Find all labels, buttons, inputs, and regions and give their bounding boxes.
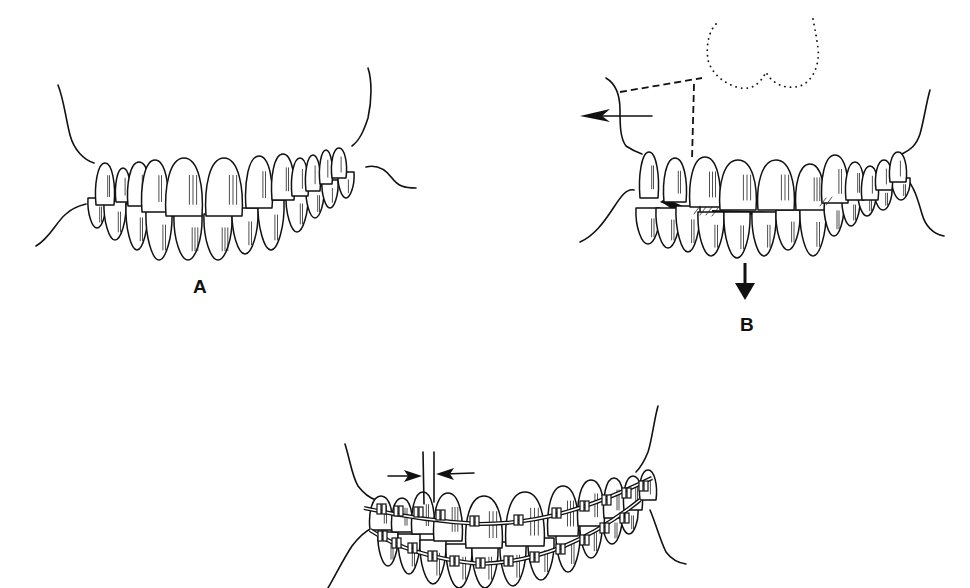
orthodontic-bracket bbox=[600, 523, 604, 533]
panel-a-left-cheek-contour bbox=[58, 85, 94, 163]
panel-a-right-chin-contour bbox=[366, 166, 416, 188]
upper-tooth bbox=[319, 150, 332, 184]
orthodontic-bracket bbox=[535, 552, 539, 562]
upper-tooth bbox=[95, 163, 114, 205]
panel-b-right-cheek-contour bbox=[902, 90, 930, 154]
orthodontic-bracket bbox=[585, 535, 589, 545]
orthodontic-bracket bbox=[585, 501, 589, 511]
orthodontic-bracket bbox=[509, 556, 513, 566]
orthodontic-bracket bbox=[399, 506, 403, 516]
orthodontic-bracket bbox=[481, 558, 485, 568]
orthodontic-bracket bbox=[476, 558, 480, 568]
orthodontic-bracket bbox=[450, 556, 454, 566]
orthodontic-bracket bbox=[419, 507, 423, 517]
upper-tooth bbox=[822, 155, 849, 203]
upper-tooth bbox=[331, 148, 346, 178]
panel-b-downward-arrow bbox=[735, 263, 755, 300]
orthodontic-bracket bbox=[475, 516, 479, 526]
panel-c-orthodontic-appliance bbox=[328, 406, 686, 588]
orthodontic-bracket bbox=[441, 510, 445, 520]
orthodontic-bracket bbox=[382, 504, 386, 514]
orthodontic-bracket bbox=[605, 523, 609, 533]
orthodontic-bracket bbox=[470, 516, 474, 526]
orthodontic-bracket bbox=[397, 538, 401, 548]
orthodontic-bracket bbox=[580, 501, 584, 511]
panel-c-left-chin-contour bbox=[328, 528, 372, 588]
orthodontic-bracket bbox=[433, 551, 437, 561]
lower-tooth bbox=[724, 212, 750, 258]
upper-tooth bbox=[305, 155, 320, 191]
orthodontic-bracket bbox=[377, 504, 381, 514]
orthodontic-bracket bbox=[383, 531, 387, 541]
orthodontic-bracket bbox=[455, 556, 459, 566]
orthodontic-bracket bbox=[519, 515, 523, 525]
upper-tooth bbox=[664, 158, 687, 202]
orthodontic-bracket bbox=[557, 508, 561, 518]
panel-a-right-cheek-contour bbox=[352, 68, 371, 146]
orthodontic-bracket bbox=[627, 488, 631, 498]
lower-tooth bbox=[104, 200, 126, 240]
lower-tooth bbox=[146, 210, 172, 260]
panel-c-right-cheek-contour bbox=[636, 406, 658, 472]
orthodontic-bracket bbox=[552, 508, 556, 518]
panel-a-normal-occlusion bbox=[36, 68, 416, 260]
lower-tooth bbox=[676, 206, 700, 252]
lower-tooth bbox=[824, 200, 844, 236]
orthodontic-bracket bbox=[504, 556, 508, 566]
orthodontic-bracket bbox=[428, 551, 432, 561]
orthodontic-bracket bbox=[378, 531, 382, 541]
dental-figure bbox=[0, 0, 970, 588]
panel-c-left-cheek-contour bbox=[345, 444, 376, 500]
orthodontic-bracket bbox=[408, 543, 412, 553]
lower-tooth bbox=[698, 212, 724, 256]
orthodontic-bracket bbox=[392, 538, 396, 548]
orthodontic-bracket bbox=[561, 544, 565, 554]
upper-tooth bbox=[889, 152, 906, 182]
lower-tooth bbox=[752, 212, 776, 256]
panel-a-left-chin-contour bbox=[36, 204, 86, 246]
lower-tooth bbox=[776, 210, 800, 250]
panel-a-label: A bbox=[193, 276, 207, 298]
panel-b-dashed-horizontal-line bbox=[620, 78, 702, 92]
orthodontic-bracket bbox=[556, 544, 560, 554]
panel-b-dotted-lip-outline bbox=[707, 14, 818, 88]
orthodontic-bracket bbox=[514, 515, 518, 525]
orthodontic-bracket bbox=[620, 513, 624, 523]
orthodontic-bracket bbox=[644, 481, 648, 491]
lower-tooth bbox=[800, 208, 826, 256]
orthodontic-bracket bbox=[607, 495, 611, 505]
orthodontic-bracket bbox=[625, 513, 629, 523]
orthodontic-bracket bbox=[414, 507, 418, 517]
orthodontic-bracket bbox=[622, 488, 626, 498]
orthodontic-bracket bbox=[413, 543, 417, 553]
panel-b-dashed-vertical-line bbox=[692, 84, 694, 160]
orthodontic-bracket bbox=[602, 495, 606, 505]
upper-tooth bbox=[639, 152, 658, 198]
panel-c-space-closure-arrows bbox=[388, 468, 474, 482]
orthodontic-bracket bbox=[394, 506, 398, 516]
upper-tooth bbox=[246, 156, 273, 208]
panel-c-right-chin-contour bbox=[650, 510, 686, 564]
orthodontic-bracket bbox=[530, 552, 534, 562]
orthodontic-bracket bbox=[639, 481, 643, 491]
panel-b-right-chin-contour bbox=[906, 178, 944, 236]
panel-b-deep-bite bbox=[580, 14, 944, 300]
lower-tooth bbox=[420, 540, 446, 584]
panel-b-forward-arrow bbox=[580, 109, 652, 122]
panel-b-label: B bbox=[740, 314, 754, 336]
orthodontic-bracket bbox=[580, 535, 584, 545]
panel-b-left-chin-contour bbox=[580, 190, 634, 242]
orthodontic-bracket bbox=[436, 510, 440, 520]
